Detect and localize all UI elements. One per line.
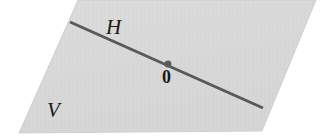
plane-v-label: V xyxy=(47,100,60,121)
origin-label: 0 xyxy=(162,68,171,86)
line-h-label: H xyxy=(106,17,121,38)
geometry-figure: H 0 V xyxy=(0,0,334,138)
